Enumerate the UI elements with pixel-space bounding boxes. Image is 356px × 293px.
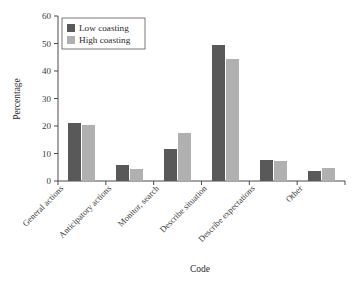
- x-category-label: Other: [284, 183, 305, 204]
- x-category-label: Monitor, search: [116, 183, 162, 229]
- category-labels: General actionsAnticipatory actionsMonit…: [20, 183, 304, 244]
- chart-canvas: 0102030405060 General actionsAnticipator…: [0, 0, 356, 293]
- y-axis-title: Percentage: [12, 78, 22, 120]
- bars-layer: [68, 45, 334, 181]
- y-axis-ticks: 0102030405060: [42, 11, 58, 186]
- y-tick-label: 10: [42, 149, 52, 159]
- legend-label-high-coasting: High coasting: [79, 35, 131, 45]
- bar: [82, 125, 95, 181]
- y-tick-label: 60: [42, 11, 52, 21]
- x-category-label: General actions: [20, 183, 65, 228]
- y-tick-label: 50: [42, 39, 52, 49]
- y-tick-label: 30: [42, 94, 52, 104]
- bar: [274, 161, 287, 181]
- bar: [164, 149, 177, 181]
- chart-legend: Low coasting High coasting: [62, 18, 145, 49]
- bar: [322, 168, 335, 181]
- legend-swatch-high-coasting: [67, 36, 75, 44]
- bar: [68, 123, 81, 181]
- legend-swatch-low-coasting: [67, 24, 75, 32]
- bar-chart-figure: 0102030405060 General actionsAnticipator…: [0, 0, 356, 293]
- bar: [260, 160, 273, 181]
- y-tick-label: 40: [42, 66, 52, 76]
- bar: [130, 169, 143, 181]
- bar: [178, 133, 191, 181]
- y-tick-label: 20: [42, 121, 52, 131]
- x-category-label: Anticipatory actions: [57, 183, 114, 240]
- bar: [116, 165, 129, 182]
- y-tick-label: 0: [47, 176, 52, 186]
- legend-label-low-coasting: Low coasting: [79, 23, 129, 33]
- x-axis-title: Code: [190, 264, 210, 274]
- bar: [212, 45, 225, 181]
- bar: [226, 59, 239, 181]
- bar: [308, 171, 321, 181]
- x-category-label: Describe situation: [158, 183, 210, 235]
